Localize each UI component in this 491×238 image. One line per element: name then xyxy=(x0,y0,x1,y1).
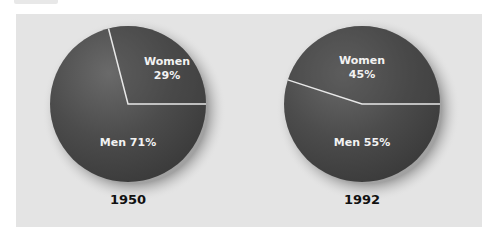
year-label: 1992 xyxy=(344,192,380,207)
men-label: Men 71% xyxy=(100,136,156,149)
women-label: Women xyxy=(339,54,385,67)
pie-1950: Women 29% Men 71% 1950 xyxy=(42,18,226,207)
year-label: 1950 xyxy=(110,192,146,207)
pie-1992: Women 45% Men 55% 1992 xyxy=(276,18,460,207)
women-label: Women xyxy=(144,55,190,68)
pie-charts: Women 29% Men 71% 1950 Women 45% Men 55%… xyxy=(0,0,491,238)
women-value: 29% xyxy=(154,69,180,82)
men-label: Men 55% xyxy=(334,136,390,149)
women-value: 45% xyxy=(349,68,375,81)
